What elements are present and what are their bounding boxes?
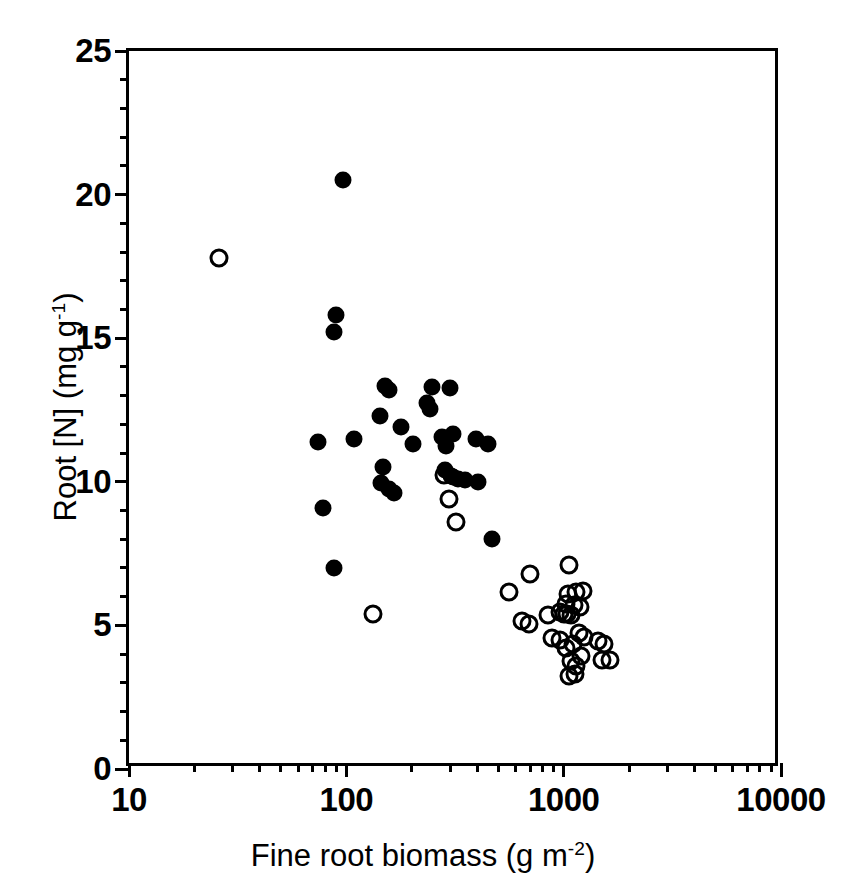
x-tick-minor (279, 763, 282, 772)
y-tick-major (115, 193, 129, 196)
y-tick-minor (120, 739, 129, 742)
y-tick-minor (120, 107, 129, 110)
y-tick-minor (120, 164, 129, 167)
data-point-filled-circles (437, 437, 454, 454)
x-axis-title-tail: ) (585, 838, 595, 873)
x-tick-minor (693, 763, 696, 772)
y-axis-title-base: Root [N] (mg g (48, 320, 83, 522)
x-tick-minor (666, 763, 669, 772)
data-point-filled-circles (421, 400, 438, 417)
x-tick-minor (770, 763, 773, 772)
y-axis-title: Root [N] (mg g-1) (36, 48, 82, 766)
data-point-open-circles (566, 665, 585, 684)
data-point-filled-circles (484, 531, 501, 548)
data-point-filled-circles (442, 380, 459, 397)
y-tick-minor (120, 423, 129, 426)
x-tick-label: 100 (320, 781, 374, 819)
data-point-open-circles (440, 490, 459, 509)
x-tick-minor (335, 763, 338, 772)
y-tick-minor (120, 308, 129, 311)
x-tick-label: 10 (111, 781, 147, 819)
y-tick-label: 0 (93, 750, 111, 788)
y-tick-minor (120, 710, 129, 713)
y-tick-minor (120, 653, 129, 656)
x-axis-title: Fine root biomass (g m-2) (0, 838, 846, 874)
x-tick-minor (449, 763, 452, 772)
x-tick-minor (758, 763, 761, 772)
data-point-open-circles (560, 556, 579, 575)
y-axis-title-tail: ) (48, 293, 83, 303)
data-point-filled-circles (335, 172, 352, 189)
data-point-open-circles (571, 646, 590, 665)
data-point-filled-circles (470, 473, 487, 490)
x-axis-title-exponent: -2 (568, 838, 585, 859)
y-tick-minor (120, 78, 129, 81)
y-tick-minor (120, 595, 129, 598)
y-tick-minor (120, 251, 129, 254)
data-point-open-circles (447, 513, 466, 532)
y-tick-label: 5 (93, 606, 111, 644)
x-tick-label: 10000 (736, 781, 825, 819)
y-tick-minor (120, 136, 129, 139)
data-point-open-circles (521, 564, 540, 583)
data-point-filled-circles (375, 459, 392, 476)
y-tick-minor (120, 279, 129, 282)
y-tick-minor (120, 365, 129, 368)
y-tick-minor (120, 452, 129, 455)
x-tick-minor (541, 763, 544, 772)
x-tick-label: 1000 (528, 781, 599, 819)
x-tick-minor (311, 763, 314, 772)
data-point-filled-circles (372, 407, 389, 424)
data-point-filled-circles (309, 433, 326, 450)
x-tick-minor (497, 763, 500, 772)
y-tick-minor (120, 509, 129, 512)
x-tick-minor (552, 763, 555, 772)
x-tick-minor (324, 763, 327, 772)
data-point-filled-circles (314, 499, 331, 516)
x-tick-major (128, 763, 131, 777)
data-point-open-circles (601, 650, 620, 669)
x-tick-major (562, 763, 565, 777)
data-point-filled-circles (392, 419, 409, 436)
y-tick-minor (120, 222, 129, 225)
data-point-filled-circles (480, 436, 497, 453)
y-tick-major (115, 480, 129, 483)
x-tick-minor (410, 763, 413, 772)
y-tick-minor (120, 566, 129, 569)
y-tick-major (115, 50, 129, 53)
x-tick-minor (258, 763, 261, 772)
x-tick-minor (529, 763, 532, 772)
data-point-open-circles (434, 465, 453, 484)
y-tick-minor (120, 681, 129, 684)
data-point-filled-circles (386, 485, 403, 502)
data-point-filled-circles (326, 324, 343, 341)
x-axis-title-base: Fine root biomass (g m (251, 838, 568, 873)
scatter-figure: 0510152025 10100100010000 Root [N] (mg g… (0, 0, 846, 885)
x-tick-major (345, 763, 348, 777)
y-tick-major (115, 337, 129, 340)
y-tick-minor (120, 538, 129, 541)
data-point-open-circles (561, 606, 580, 625)
data-point-filled-circles (380, 381, 397, 398)
x-tick-minor (731, 763, 734, 772)
x-tick-minor (193, 763, 196, 772)
data-point-open-circles (210, 248, 229, 267)
x-tick-minor (231, 763, 234, 772)
data-point-filled-circles (328, 307, 345, 324)
y-tick-minor (120, 394, 129, 397)
x-tick-minor (628, 763, 631, 772)
data-point-filled-circles (423, 379, 440, 396)
y-axis-title-exponent: -1 (48, 303, 69, 320)
y-tick-major (115, 624, 129, 627)
data-point-filled-circles (345, 430, 362, 447)
plot-area: 0510152025 10100100010000 (126, 48, 778, 766)
data-point-open-circles (499, 583, 518, 602)
x-tick-major (780, 763, 783, 777)
x-tick-minor (514, 763, 517, 772)
data-point-open-circles (363, 604, 382, 623)
data-point-filled-circles (326, 559, 343, 576)
x-tick-minor (476, 763, 479, 772)
x-tick-minor (746, 763, 749, 772)
x-tick-minor (714, 763, 717, 772)
x-tick-minor (297, 763, 300, 772)
